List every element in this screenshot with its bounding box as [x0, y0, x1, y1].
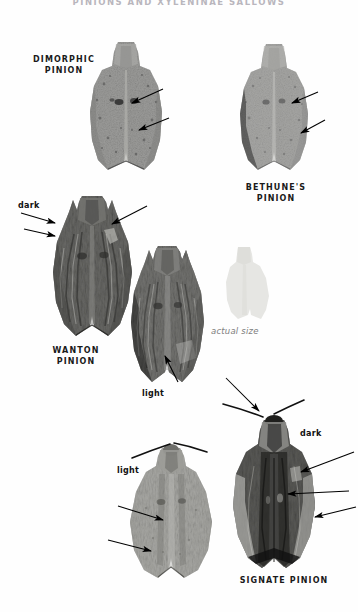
species-label-signate-pinion: SIGNATE PINION: [232, 575, 336, 586]
callout-wanton-dark: dark: [18, 201, 40, 210]
specimen-wanton-pinion-dark: [52, 192, 134, 338]
specimen-bethunes-pinion: [238, 42, 310, 172]
running-head: PINIONS AND XYLENINAE SALLOWS: [0, 0, 358, 6]
specimen-signate-pinion-light: [128, 434, 214, 580]
species-label-dimorphic-pinion: DIMORPHIC PINION: [28, 54, 100, 76]
callout-signate-dark: dark: [300, 429, 322, 438]
callout-signate-light: light: [117, 466, 139, 475]
actual-size-swatch: [218, 246, 270, 322]
species-label-bethunes-pinion: BETHUNE'S PINION: [228, 182, 324, 204]
species-label-wanton-pinion: WANTON PINION: [34, 345, 118, 367]
arrow-wanton-dark-2: [24, 229, 55, 236]
arrow-signate-top: [226, 378, 259, 411]
specimen-wanton-pinion-light: [130, 244, 206, 384]
field-guide-page: PINIONS AND XYLENINAE SALLOWS: [0, 0, 358, 612]
actual-size-caption: actual size: [211, 326, 259, 336]
arrow-signate-dark-3: [315, 507, 356, 517]
callout-wanton-light: light: [142, 389, 164, 398]
arrow-wanton-dark-1: [21, 213, 55, 223]
